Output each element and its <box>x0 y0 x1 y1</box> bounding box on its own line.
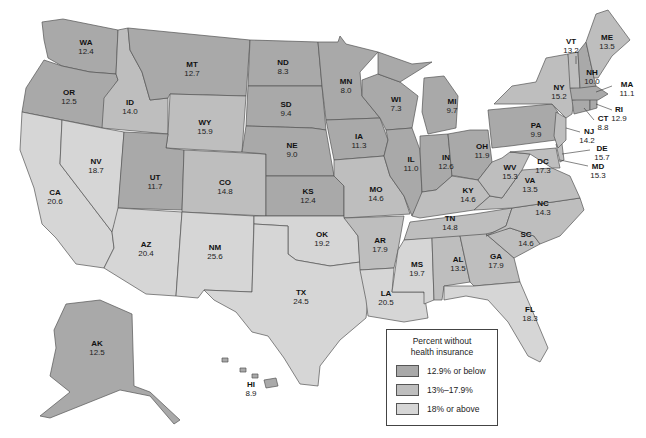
svg-text:8.9: 8.9 <box>245 389 257 398</box>
svg-text:12.5: 12.5 <box>89 348 105 357</box>
svg-text:13.5: 13.5 <box>599 42 615 51</box>
svg-text:12.4: 12.4 <box>78 47 94 56</box>
svg-text:SC: SC <box>520 230 531 239</box>
svg-text:SD: SD <box>280 100 291 109</box>
svg-text:HI: HI <box>247 380 255 389</box>
svg-text:19.2: 19.2 <box>314 239 330 248</box>
state-AK[interactable] <box>40 300 180 424</box>
svg-text:8.0: 8.0 <box>340 86 352 95</box>
svg-text:11.3: 11.3 <box>352 141 368 150</box>
svg-text:MO: MO <box>370 185 383 194</box>
svg-text:9.9: 9.9 <box>530 130 542 139</box>
svg-text:KY: KY <box>462 186 474 195</box>
svg-text:MI: MI <box>448 97 457 106</box>
svg-text:9.4: 9.4 <box>280 109 292 118</box>
svg-text:8.8: 8.8 <box>597 123 609 132</box>
svg-text:12.4: 12.4 <box>300 196 316 205</box>
svg-text:14.8: 14.8 <box>217 187 233 196</box>
svg-text:17.9: 17.9 <box>488 261 504 270</box>
svg-text:9.7: 9.7 <box>446 106 458 115</box>
svg-text:WI: WI <box>391 95 401 104</box>
svg-text:8.3: 8.3 <box>277 67 289 76</box>
legend-label-mid: 13%–17.9% <box>427 385 473 395</box>
svg-text:FL: FL <box>525 305 535 314</box>
svg-text:15.3: 15.3 <box>590 171 606 180</box>
svg-text:13.5: 13.5 <box>522 185 538 194</box>
svg-text:11.7: 11.7 <box>148 182 164 191</box>
svg-text:15.2: 15.2 <box>551 92 567 101</box>
svg-text:12.7: 12.7 <box>184 69 200 78</box>
svg-text:20.6: 20.6 <box>47 197 63 206</box>
svg-text:14.8: 14.8 <box>442 223 458 232</box>
legend-swatch-mid <box>396 384 419 396</box>
svg-text:WY: WY <box>199 118 213 127</box>
svg-text:AL: AL <box>453 255 464 264</box>
legend-item-high: 18% or above <box>396 402 497 415</box>
svg-text:17.9: 17.9 <box>372 245 388 254</box>
svg-text:20.4: 20.4 <box>138 249 154 258</box>
svg-text:14.6: 14.6 <box>368 194 384 203</box>
svg-text:11.1: 11.1 <box>620 89 636 98</box>
svg-text:18.3: 18.3 <box>522 314 538 323</box>
svg-text:DE: DE <box>596 144 608 153</box>
svg-text:9.0: 9.0 <box>286 150 298 159</box>
legend-swatch-low <box>396 365 419 377</box>
svg-text:NJ: NJ <box>584 127 594 136</box>
svg-text:12.5: 12.5 <box>61 97 77 106</box>
svg-text:OH: OH <box>476 142 488 151</box>
svg-text:NV: NV <box>90 157 102 166</box>
legend-title-line2: health insurance <box>387 347 497 358</box>
svg-text:15.7: 15.7 <box>594 153 610 162</box>
svg-text:ID: ID <box>126 98 134 107</box>
svg-text:CO: CO <box>219 178 231 187</box>
svg-text:19.7: 19.7 <box>409 269 425 278</box>
svg-text:LA: LA <box>381 289 392 298</box>
svg-text:OR: OR <box>63 88 75 97</box>
svg-text:ND: ND <box>277 58 289 67</box>
svg-text:AR: AR <box>374 236 386 245</box>
svg-text:VT: VT <box>566 37 576 46</box>
svg-text:VA: VA <box>525 176 536 185</box>
svg-text:12.6: 12.6 <box>438 162 454 171</box>
svg-text:DC: DC <box>537 157 549 166</box>
svg-text:CT: CT <box>598 114 609 123</box>
svg-text:WV: WV <box>504 163 518 172</box>
legend-label-low: 12.9% or below <box>427 366 486 376</box>
svg-text:15.3: 15.3 <box>502 172 518 181</box>
svg-text:KS: KS <box>302 187 314 196</box>
svg-text:NE: NE <box>286 141 298 150</box>
svg-text:MN: MN <box>340 77 353 86</box>
svg-text:11.0: 11.0 <box>404 164 420 173</box>
svg-text:13.2: 13.2 <box>563 46 579 55</box>
legend-title: Percent without health insurance <box>387 336 497 358</box>
svg-text:PA: PA <box>531 121 542 130</box>
svg-text:CA: CA <box>49 188 61 197</box>
svg-text:18.7: 18.7 <box>88 166 104 175</box>
svg-text:TX: TX <box>296 288 307 297</box>
legend-title-line1: Percent without <box>387 336 497 347</box>
state-PA[interactable] <box>488 104 558 148</box>
legend-item-low: 12.9% or below <box>396 364 497 377</box>
svg-text:UT: UT <box>150 173 161 182</box>
svg-text:MA: MA <box>621 80 634 89</box>
svg-text:MT: MT <box>186 60 198 69</box>
svg-text:14.2: 14.2 <box>579 136 595 145</box>
svg-text:NM: NM <box>209 243 222 252</box>
svg-text:NY: NY <box>553 83 565 92</box>
us-choropleth-map: WA12.4 OR12.5 CA20.6 ID14.0 NV18.7 MT12.… <box>0 0 646 438</box>
svg-text:AK: AK <box>91 339 103 348</box>
svg-text:MD: MD <box>592 162 605 171</box>
svg-text:14.6: 14.6 <box>460 195 476 204</box>
state-NJ[interactable] <box>554 112 566 148</box>
svg-text:ME: ME <box>601 33 614 42</box>
svg-text:13.5: 13.5 <box>450 264 466 273</box>
svg-text:24.5: 24.5 <box>293 297 309 306</box>
svg-text:14.6: 14.6 <box>518 239 534 248</box>
svg-text:OK: OK <box>316 230 328 239</box>
svg-text:AZ: AZ <box>141 240 152 249</box>
svg-text:10.0: 10.0 <box>584 77 600 86</box>
legend-item-mid: 13%–17.9% <box>396 383 497 396</box>
svg-text:MS: MS <box>411 260 424 269</box>
svg-text:25.6: 25.6 <box>207 252 223 261</box>
svg-text:TN: TN <box>445 214 456 223</box>
